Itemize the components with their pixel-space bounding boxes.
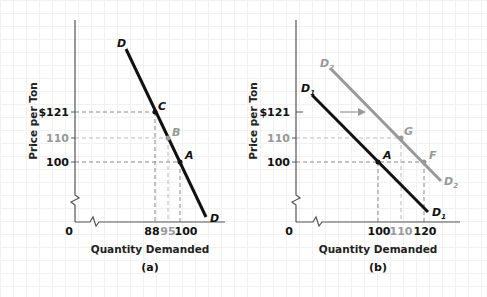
shift-arrow <box>340 108 366 116</box>
figure: D D C B A $121 110 100 0 88 95 100 Quant… <box>0 0 487 297</box>
caption-a: (a) <box>141 261 158 274</box>
curve-label-d-top: D <box>117 37 126 50</box>
point-label-a: A <box>184 149 194 162</box>
point-f <box>422 160 427 165</box>
xtick-120-b: 120 <box>414 225 437 238</box>
ytick-100-b: 100 <box>267 156 290 169</box>
y-axis-a <box>71 20 79 222</box>
point-label-f: F <box>429 149 437 162</box>
x-axis-title-b: Quantity Demanded <box>319 243 438 255</box>
point-label-g: G <box>404 125 413 138</box>
point-b <box>166 136 171 141</box>
ytick-121-b: $121 <box>259 106 290 119</box>
panel-b: D2 D1 D2 D1 A G F $121 110 100 0 100 110… <box>247 20 460 274</box>
origin-b: 0 <box>285 225 293 238</box>
xtick-95-a: 95 <box>160 225 175 238</box>
point-label-a-b: A <box>382 149 392 162</box>
ytick-100-a: 100 <box>46 156 69 169</box>
ytick-110-b: 110 <box>267 132 290 145</box>
guide-lines-b <box>296 138 424 222</box>
y-axis-b <box>292 20 300 222</box>
x-axis-title-a: Quantity Demanded <box>91 243 210 255</box>
xtick-100-b: 100 <box>368 225 391 238</box>
xtick-110-b: 110 <box>390 225 413 238</box>
xtick-88-a: 88 <box>144 225 159 238</box>
ytick-121-a: $121 <box>38 106 69 119</box>
y-axis-title-a: Price per Ton <box>27 82 39 159</box>
origin-a: 0 <box>65 225 73 238</box>
point-label-b: B <box>172 126 180 139</box>
curve-label-d2-top: D2 <box>320 57 334 72</box>
point-a-b <box>376 160 381 165</box>
curve-label-d1-top: D1 <box>301 82 315 97</box>
point-a <box>178 160 183 165</box>
y-axis-title-b: Price per Ton <box>247 82 259 159</box>
curve-label-d2-bottom: D2 <box>444 175 458 190</box>
ytick-110-a: 110 <box>46 132 69 145</box>
panel-a: D D C B A $121 110 100 0 88 95 100 Quant… <box>27 20 225 274</box>
point-c <box>153 110 158 115</box>
demand-curve-d <box>126 49 206 217</box>
demand-curve-d1 <box>312 95 428 212</box>
curve-label-d1-bottom: D1 <box>432 206 446 221</box>
caption-b: (b) <box>369 261 387 274</box>
xtick-100-a: 100 <box>175 225 198 238</box>
point-g <box>399 136 404 141</box>
point-label-c: C <box>158 100 166 113</box>
curve-label-d-bottom: D <box>210 212 219 225</box>
